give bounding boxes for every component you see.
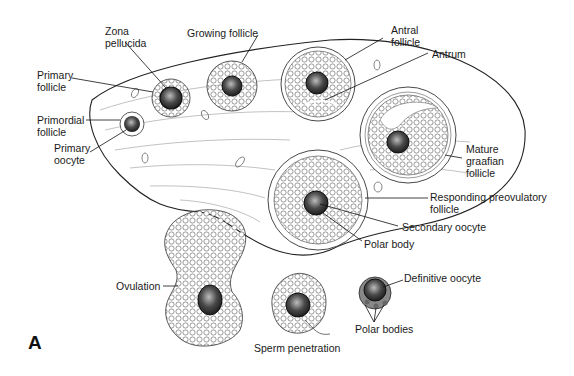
label-ovulation: Ovulation [116,280,160,292]
primary-follicle [152,79,190,117]
label-responding-preovulatory-follicle: Responding preovulatory follicle [430,191,547,215]
label-growing-follicle: Growing follicle [187,27,258,39]
label-definitive-oocyte: Definitive oocyte [404,272,481,284]
ovary-follicle-diagram [0,0,574,376]
label-polar-bodies: Polar bodies [355,323,413,335]
sperm-penetration-oocyte [272,273,330,334]
label-sperm-penetration: Sperm penetration [254,342,340,354]
label-secondary-oocyte: Secondary oocyte [402,221,486,233]
label-zona-pellucida: Zona pellucida [105,25,146,49]
label-primary-oocyte: Primary oocyte [54,142,90,166]
antral-follicle [281,47,355,121]
label-primary-follicle: Primary follicle [37,69,73,93]
growing-follicle [207,61,257,111]
label-primordial-follicle: Primordial follicle [37,114,84,138]
label-polar-body: Polar body [364,238,414,250]
definitive-oocyte [359,277,391,309]
primordial-follicle [120,112,144,136]
label-antrum: Antrum [432,48,466,60]
ovulation-site [165,210,246,346]
label-antral-follicle: Antral follicle [391,24,420,48]
label-mature-graafian-follicle: Mature graafian follicle [466,143,504,179]
panel-label: A [28,332,42,354]
mature-graafian-follicle [360,87,456,183]
